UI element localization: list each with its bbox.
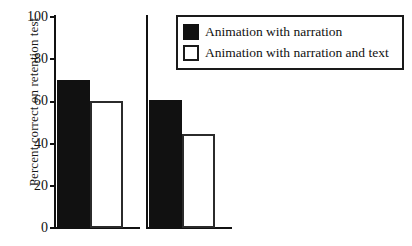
y-axis-tick-labels: 100 80 60 40 20 0: [18, 0, 48, 246]
y-tick-0: 0: [18, 221, 48, 235]
legend-swatch-open-icon: [183, 45, 199, 61]
left-panel-y-axis: [54, 15, 56, 229]
y-tick-80: 80: [18, 52, 48, 66]
right-panel-y-axis: [146, 15, 148, 229]
y-tick-60: 60: [18, 94, 48, 108]
y-tick-40: 40: [18, 137, 48, 151]
bar-right-narration: [149, 100, 182, 228]
legend-swatch-filled-icon: [183, 24, 199, 40]
legend: Animation with narration Animation with …: [176, 15, 404, 70]
y-tick-100: 100: [18, 10, 48, 24]
legend-entry-narration-text: Animation with narration and text: [183, 42, 397, 63]
y-tick-20: 20: [18, 179, 48, 193]
legend-label-narration: Animation with narration: [205, 25, 342, 39]
legend-label-narration-text: Animation with narration and text: [205, 46, 389, 60]
bar-right-narration-text: [182, 134, 215, 228]
legend-entry-narration: Animation with narration: [183, 21, 397, 42]
bar-left-narration: [57, 80, 90, 228]
chart-figure: Percent correct on retention test 100 80…: [0, 0, 412, 246]
bar-left-narration-text: [90, 101, 123, 228]
